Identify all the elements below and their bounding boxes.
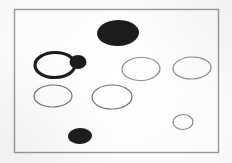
- ellipse-thin-center-lower: [92, 85, 132, 110]
- ellipse-thin-small-bottom-right: [173, 114, 194, 130]
- ellipse-small-filled-attached: [70, 55, 87, 69]
- ellipse-figure: [0, 0, 232, 163]
- ellipse-bold-outline-left: [35, 52, 75, 78]
- figure-canvas: [0, 0, 232, 163]
- ellipse-thin-left-lower: [34, 85, 72, 108]
